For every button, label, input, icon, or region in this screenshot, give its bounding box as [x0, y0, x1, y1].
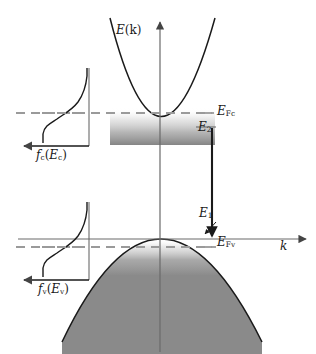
figure-canvas [0, 0, 316, 354]
band-diagram-figure: E(k) EFc E2 E1 EFv k fc(Ec) fv(Ev) [0, 0, 316, 354]
inset-conduction-label: fc(Ec) [36, 149, 67, 162]
inset-c-fermi-curve [43, 68, 87, 143]
quasi-fermi-conduction-label: EFc [217, 105, 235, 118]
conduction-fermi-inset [24, 68, 89, 146]
quasi-fermi-valence-label: EFv [217, 236, 235, 249]
valence-fermi-inset [24, 202, 89, 280]
momentum-axis-label: k [280, 240, 287, 252]
e1-pointer [205, 222, 216, 234]
lower-state-label: E1 [199, 207, 213, 220]
inset-valence-label: fv(Ev) [38, 283, 69, 296]
energy-axis-label: E(k) [116, 24, 141, 36]
valence-band [62, 239, 262, 354]
valence-band-fill [62, 239, 262, 354]
upper-state-label: E2 [198, 121, 212, 134]
